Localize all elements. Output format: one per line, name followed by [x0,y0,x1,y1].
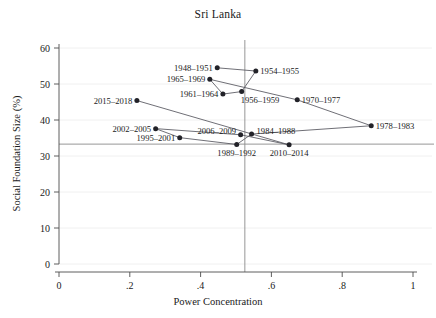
data-point[interactable] [369,123,374,128]
y-axis-ticks: 0102030405060 [40,43,59,270]
y-tick-label: 60 [40,43,50,54]
data-point[interactable] [234,142,239,147]
data-point[interactable] [134,98,139,103]
data-point[interactable] [220,92,225,97]
chart-figure: Sri Lanka 0102030405060 0.2.4.6.81 1948–… [0,0,436,318]
x-axis-ticks: 0.2.4.6.81 [57,272,416,291]
data-point-label: 1970–1977 [302,95,341,105]
data-point[interactable] [207,77,212,82]
data-point[interactable] [253,69,258,74]
data-point-label: 1965–1969 [167,74,206,84]
data-point-label: 1954–1955 [260,66,299,76]
data-point-label: 1989–1992 [217,148,256,158]
data-point[interactable] [239,89,244,94]
data-point[interactable] [238,132,243,137]
scatter-plot: 0102030405060 0.2.4.6.81 1948–19511954–1… [0,0,436,318]
x-tick-label: .8 [338,280,346,291]
data-point[interactable] [295,97,300,102]
y-tick-label: 10 [40,223,50,234]
y-tick-label: 50 [40,79,50,90]
y-tick-label: 0 [45,259,50,270]
x-tick-label: 0 [57,280,62,291]
data-point[interactable] [249,132,254,137]
axes [55,44,417,272]
x-tick-label: .6 [268,280,276,291]
x-axis-label: Power Concentration [0,296,436,307]
data-point-label: 1956–1959 [241,95,280,105]
data-point[interactable] [215,65,220,70]
data-point-label: 1984–1988 [257,126,296,136]
x-tick-label: .4 [197,280,205,291]
y-tick-label: 40 [40,115,50,126]
data-point-label: 2002–2005 [112,124,151,134]
data-point-label: 1961–1964 [180,89,219,99]
data-point-label: 1978–1983 [376,121,415,131]
data-point-label: 1948–1951 [174,63,213,73]
data-point-label: 2010–2014 [270,148,309,158]
y-axis-label: Social Foundation Size (%) [11,44,22,264]
data-point-label: 2015–2018 [94,96,133,106]
data-point-label: 2006–2009 [197,126,236,136]
x-tick-label: .2 [126,280,134,291]
x-tick-label: 1 [411,280,416,291]
data-point[interactable] [153,126,158,131]
data-point-label: 1995–2001 [137,133,176,143]
y-tick-label: 20 [40,187,50,198]
y-tick-label: 30 [40,151,50,162]
data-point[interactable] [287,142,292,147]
data-point[interactable] [177,135,182,140]
